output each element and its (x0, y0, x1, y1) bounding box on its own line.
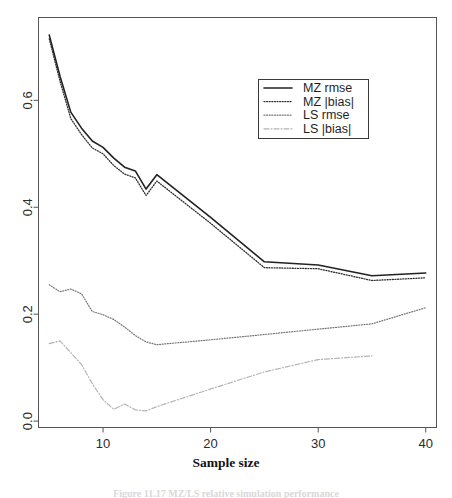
y-tick-label: 0.0 (20, 412, 35, 430)
legend-label-0[interactable]: MZ rmse (303, 81, 352, 95)
x-tick-label: 10 (96, 436, 110, 451)
figure-caption-strip: Figure 11.17 MZ/LS relative simulation p… (0, 489, 452, 498)
x-axis-title: Sample size (192, 455, 259, 470)
chart-legend[interactable]: MZ rmseMZ |bias|LS rmseLS |bias| (259, 80, 369, 139)
figure-background (0, 0, 452, 498)
x-tick-label: 20 (203, 436, 217, 451)
y-tick-label: 0.6 (20, 91, 35, 109)
legend-label-1[interactable]: MZ |bias| (303, 95, 354, 109)
line-chart: 0.00.20.40.6 10203040 MZ rmseMZ |bias|LS… (0, 0, 452, 498)
figure-caption: Figure 11.17 MZ/LS relative simulation p… (113, 489, 339, 498)
legend-label-2[interactable]: LS rmse (303, 108, 350, 122)
x-tick-label: 40 (419, 436, 433, 451)
x-tick-label: 30 (311, 436, 325, 451)
y-tick-label: 0.4 (20, 198, 35, 216)
figure-container: 0.00.20.40.6 10203040 MZ rmseMZ |bias|LS… (0, 0, 452, 498)
y-tick-label: 0.2 (20, 305, 35, 323)
legend-label-3[interactable]: LS |bias| (303, 122, 351, 136)
